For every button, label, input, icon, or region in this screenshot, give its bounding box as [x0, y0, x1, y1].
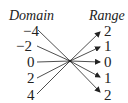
- mapping-arrow: [70, 32, 100, 61]
- mapping-line: [37, 61, 70, 62]
- mapping-line: [37, 46, 70, 61]
- mapping-arrow: [70, 61, 100, 62]
- mapping-arrows: [0, 0, 128, 103]
- domain-range-mapping-diagram: Domain Range −4 −2 0 2 4 2 1 0 1 2: [0, 0, 128, 103]
- mapping-arrow: [70, 61, 100, 77]
- mapping-line: [37, 61, 70, 78]
- mapping-line: [37, 61, 70, 94]
- mapping-line: [38, 30, 70, 61]
- mapping-arrow: [70, 47, 100, 61]
- mapping-arrow: [70, 61, 100, 92]
- intersection-point: [69, 60, 72, 63]
